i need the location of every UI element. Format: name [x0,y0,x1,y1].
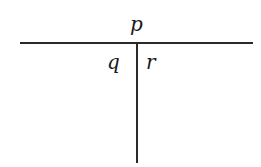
right-label-r: r [146,52,156,72]
vertical-line [136,43,138,163]
top-label-p: p [130,14,143,34]
left-label-q: q [107,52,120,72]
